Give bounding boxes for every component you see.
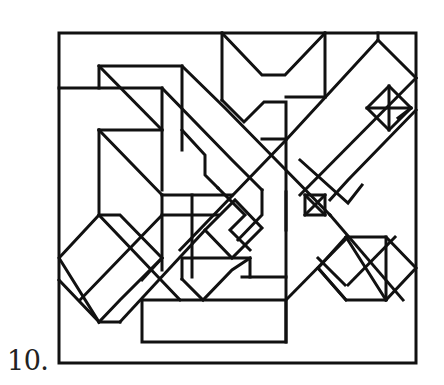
lower-diag-1 bbox=[330, 215, 403, 300]
right-hexagon-diag-1 bbox=[346, 237, 386, 300]
outer-frame bbox=[59, 33, 416, 363]
geometric-line-figure bbox=[0, 0, 444, 385]
left-diamond-diag-3 bbox=[80, 215, 162, 300]
top-left-band bbox=[59, 88, 162, 190]
diag-tl-1 bbox=[99, 66, 162, 130]
diag-tr-corner bbox=[378, 40, 416, 78]
bottom-long-rect bbox=[142, 300, 286, 342]
middle-v bbox=[222, 100, 286, 230]
top-envelope-v bbox=[222, 33, 325, 75]
diag-tl-2 bbox=[99, 130, 162, 195]
left-diamond-diag-2 bbox=[99, 215, 180, 300]
central-diamond-b bbox=[205, 200, 262, 258]
diag-band-a bbox=[162, 88, 262, 190]
figure-strokes bbox=[59, 33, 416, 363]
central-diamond-a bbox=[218, 188, 250, 250]
diag-band-tr-outer bbox=[180, 33, 378, 250]
right-notch bbox=[300, 160, 362, 203]
diag-band-b bbox=[182, 66, 330, 215]
